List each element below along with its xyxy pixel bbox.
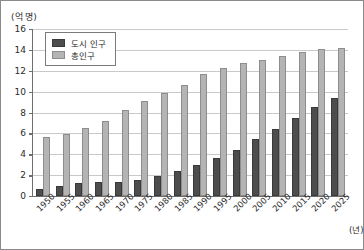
bar-total bbox=[259, 60, 266, 196]
bar-total bbox=[299, 52, 306, 196]
bar-urban bbox=[95, 182, 102, 196]
bar-group bbox=[115, 29, 129, 196]
y-axis-tick-label: 8 bbox=[20, 108, 26, 118]
y-axis-tick-label: 6 bbox=[20, 128, 26, 138]
y-axis-unit-label: (억 명) bbox=[11, 10, 37, 23]
bar-group bbox=[331, 29, 345, 196]
bar-urban bbox=[56, 186, 63, 196]
legend-swatch-total-icon bbox=[52, 51, 65, 59]
bar-total bbox=[82, 128, 89, 196]
bar-group bbox=[233, 29, 247, 196]
bar-group bbox=[174, 29, 188, 196]
y-axis-tick-label: 14 bbox=[15, 45, 26, 55]
bar-total bbox=[279, 56, 286, 196]
bar-total bbox=[141, 101, 148, 197]
legend-label-total: 총인구 bbox=[71, 49, 95, 61]
x-axis-labels: 1950195519601965197019751980198519901995… bbox=[32, 199, 348, 239]
bar-urban bbox=[75, 183, 82, 196]
bar-group bbox=[193, 29, 207, 196]
chart-container: (억 명) 0246810121416 19501955196019651970… bbox=[0, 0, 364, 250]
bar-total bbox=[63, 134, 70, 196]
bar-total bbox=[102, 121, 109, 196]
y-axis-tick-label: 16 bbox=[15, 24, 26, 34]
bar-total bbox=[161, 93, 168, 196]
bar-total bbox=[122, 110, 129, 196]
bar-group bbox=[292, 29, 306, 196]
legend-label-urban: 도시 인구 bbox=[71, 37, 106, 49]
bar-urban bbox=[252, 139, 259, 196]
bar-total bbox=[338, 48, 345, 196]
bar-urban bbox=[311, 107, 318, 196]
bar-urban bbox=[233, 150, 240, 196]
bar-total bbox=[43, 137, 50, 196]
bar-urban bbox=[292, 118, 299, 196]
legend-item-total: 총인구 bbox=[52, 49, 106, 61]
bar-group bbox=[154, 29, 168, 196]
y-axis-tick-label: 12 bbox=[15, 66, 26, 76]
y-axis-tick-label: 0 bbox=[20, 191, 26, 201]
y-axis-tick-label: 2 bbox=[20, 170, 26, 180]
bar-group bbox=[252, 29, 266, 196]
bar-total bbox=[318, 49, 325, 196]
y-axis-tick-label: 10 bbox=[15, 87, 26, 97]
bar-urban bbox=[213, 158, 220, 196]
legend-swatch-urban-icon bbox=[52, 39, 65, 47]
y-axis-tick-label: 4 bbox=[20, 149, 26, 159]
bar-urban bbox=[193, 165, 200, 196]
bar-total bbox=[240, 63, 247, 196]
bar-total bbox=[181, 85, 188, 196]
bar-total bbox=[200, 74, 207, 196]
bar-group bbox=[213, 29, 227, 196]
x-axis-unit-label: (년) bbox=[349, 223, 364, 235]
bar-urban bbox=[331, 98, 338, 196]
bar-group bbox=[134, 29, 148, 196]
bar-urban bbox=[174, 171, 181, 196]
bar-urban bbox=[134, 180, 141, 196]
chart-legend: 도시 인구 총인구 bbox=[45, 32, 116, 66]
bar-urban bbox=[36, 189, 43, 196]
bar-urban bbox=[272, 129, 279, 196]
bar-urban bbox=[154, 176, 161, 196]
legend-item-urban: 도시 인구 bbox=[52, 37, 106, 49]
bar-group bbox=[311, 29, 325, 196]
y-axis-tick bbox=[29, 196, 33, 197]
bar-urban bbox=[115, 182, 122, 196]
bar-total bbox=[220, 68, 227, 196]
bar-group bbox=[272, 29, 286, 196]
